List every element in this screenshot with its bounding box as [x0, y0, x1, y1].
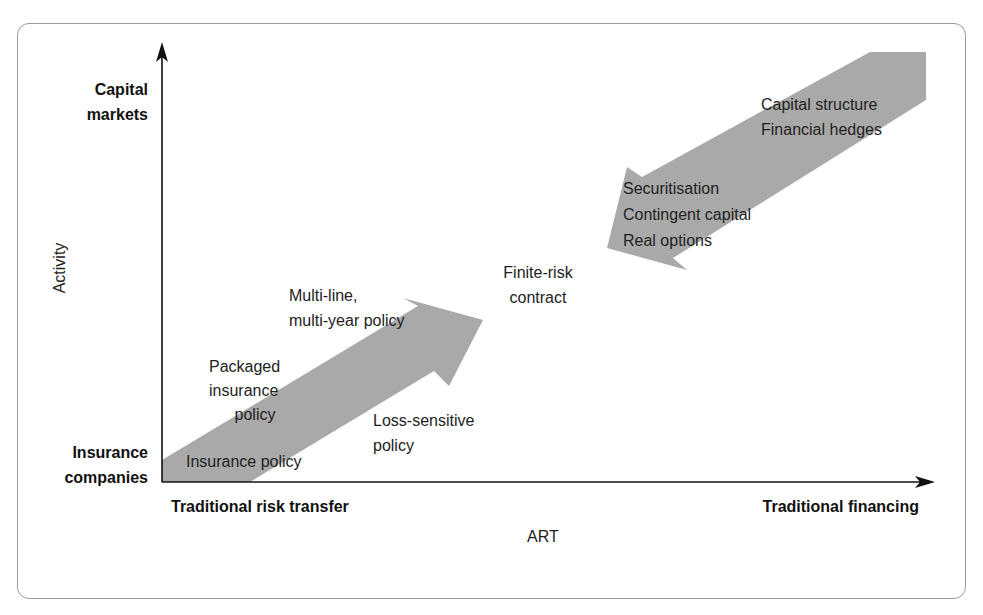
x-axis-title: ART	[527, 527, 559, 547]
item-contingent-capital: Contingent capital	[623, 205, 751, 225]
y-axis-top-label: Capital markets	[60, 77, 148, 127]
item-loss-sensitive-policy: Loss-sensitive policy	[373, 408, 474, 458]
item-packaged-insurance-policy: Packaged insurance policy	[209, 355, 301, 427]
item-securitisation: Securitisation	[623, 179, 719, 199]
item-multi-line-policy: Multi-line, multi-year policy	[289, 283, 405, 333]
y-axis-bottom-label: Insurance companies	[40, 440, 148, 490]
y-axis-top-label-line2: markets	[60, 102, 148, 127]
item-loss-sensitive-line1: Loss-sensitive	[373, 408, 474, 433]
y-axis-bottom-label-line1: Insurance	[40, 440, 148, 465]
y-axis-bottom-label-line2: companies	[40, 465, 148, 490]
y-axis-title: Activity	[50, 238, 70, 298]
item-packaged-line3: policy	[209, 403, 301, 427]
item-real-options: Real options	[623, 231, 712, 251]
item-capital-structure: Capital structure	[761, 95, 878, 115]
item-finite-risk-line1: Finite-risk	[492, 260, 584, 285]
x-axis-right-label: Traditional financing	[700, 497, 919, 517]
item-packaged-line1: Packaged	[209, 355, 301, 379]
item-packaged-line2: insurance	[209, 379, 301, 403]
x-axis-left-label: Traditional risk transfer	[171, 497, 349, 517]
item-insurance-policy: Insurance policy	[186, 452, 302, 472]
y-axis-top-label-line1: Capital	[60, 77, 148, 102]
item-multi-line-line1: Multi-line,	[289, 283, 405, 308]
item-financial-hedges: Financial hedges	[761, 120, 882, 140]
item-multi-line-line2: multi-year policy	[289, 308, 405, 333]
item-loss-sensitive-line2: policy	[373, 433, 474, 458]
item-finite-risk-contract: Finite-risk contract	[492, 260, 584, 310]
item-finite-risk-line2: contract	[492, 285, 584, 310]
